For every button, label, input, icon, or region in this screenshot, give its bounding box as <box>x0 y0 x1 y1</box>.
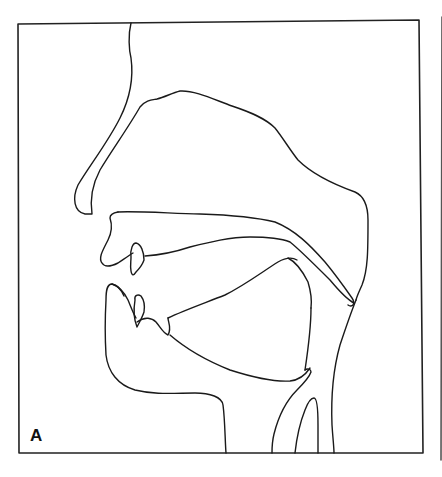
oral-cavity-roof-inner <box>145 237 354 303</box>
panel-label: A <box>30 426 42 446</box>
larynx-fold <box>295 398 318 453</box>
vocal-tract-figure <box>0 0 442 477</box>
lower-lip-and-jaw <box>105 284 226 453</box>
mouth-floor <box>137 318 170 335</box>
nose-profile <box>75 23 368 300</box>
tongue-root <box>305 308 311 370</box>
tongue-underside <box>170 335 310 381</box>
tongue-dorsum <box>168 258 297 318</box>
upper-lip-and-palate <box>101 212 133 266</box>
lower-tooth <box>134 295 144 327</box>
panel-frame <box>18 20 423 453</box>
velum <box>288 258 311 308</box>
upper-tooth <box>131 243 144 275</box>
pharynx-posterior-wall <box>332 300 356 453</box>
lower-lip-inner <box>112 284 136 318</box>
hard-palate-roof <box>118 212 354 306</box>
